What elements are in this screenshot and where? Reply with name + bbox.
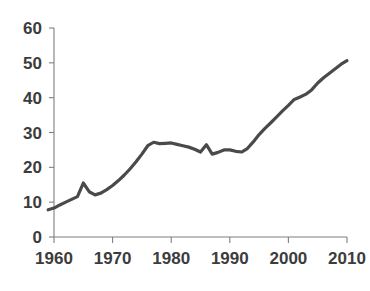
x-tick-label: 1990: [211, 250, 249, 267]
y-tick-label: 10: [0, 194, 42, 211]
series-line-1: [48, 61, 347, 210]
line-chart-figure: 0102030405060 196019701980199020002010: [0, 0, 370, 291]
y-tick-label: 50: [0, 54, 42, 71]
y-tick-label: 40: [0, 89, 42, 106]
x-tick-label: 2010: [328, 250, 366, 267]
caption-strip: [0, 284, 370, 291]
x-tick-label: 2000: [269, 250, 307, 267]
y-tick-label: 20: [0, 159, 42, 176]
y-tick-label: 60: [0, 20, 42, 37]
plot-area: [0, 0, 370, 291]
y-tick-label: 30: [0, 124, 42, 141]
x-tick-label: 1970: [94, 250, 132, 267]
x-tick-label: 1980: [152, 250, 190, 267]
y-tick-label: 0: [0, 229, 42, 246]
x-tick-label: 1960: [35, 250, 73, 267]
